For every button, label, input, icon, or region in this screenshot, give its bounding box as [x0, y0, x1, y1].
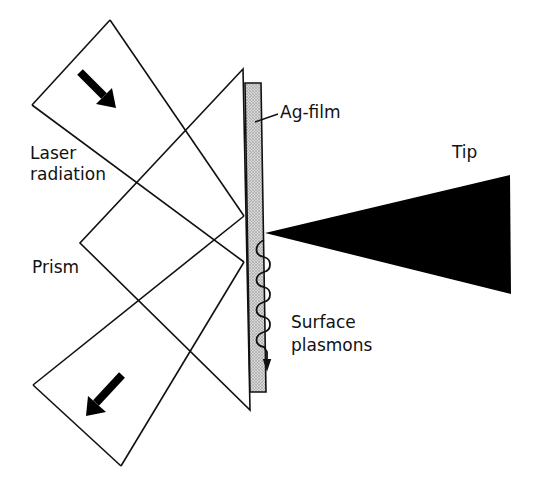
laser-beam-out [33, 216, 244, 466]
tip [265, 175, 511, 294]
label-plasmons: plasmons [291, 335, 373, 355]
label-tip: Tip [451, 142, 477, 162]
arrow-in-icon [80, 72, 116, 108]
label-laser: Laser [30, 143, 76, 163]
label-radiation: radiation [30, 164, 106, 184]
label-ag-film: Ag-film [280, 102, 341, 122]
label-surface: Surface [291, 312, 356, 332]
label-prism: Prism [32, 257, 79, 277]
snom-diagram: Laser radiation Prism Ag-film Tip Surfac… [0, 0, 535, 495]
laser-beam-in [32, 20, 244, 262]
prism [80, 69, 250, 410]
arrow-out-icon [86, 375, 122, 416]
